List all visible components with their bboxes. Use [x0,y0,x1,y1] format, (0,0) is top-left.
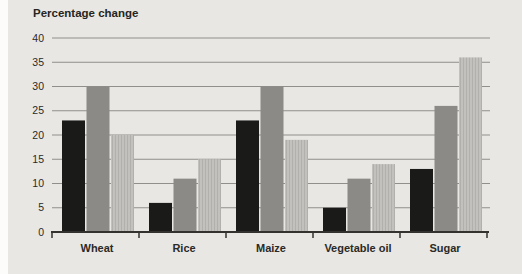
bar-rice-light-gray [198,159,221,232]
y-tick-label: 25 [32,104,44,116]
bar-rice-black [149,203,172,232]
bar-chart: 0510152025303540WheatRiceMaizeVegetable … [8,0,522,274]
y-tick-label: 40 [32,32,44,44]
bar-maize-black [236,120,259,232]
y-tick-label: 15 [32,153,44,165]
x-category-label: Rice [172,242,195,254]
bar-wheat-dark-gray [87,87,110,233]
x-category-label: Maize [256,242,286,254]
bar-vegetable-oil-black [323,208,346,232]
bar-maize-dark-gray [261,87,284,233]
x-category-label: Wheat [81,242,114,254]
y-tick-label: 30 [32,80,44,92]
bar-sugar-dark-gray [435,106,458,232]
x-category-label: Sugar [429,242,461,254]
y-tick-label: 5 [38,201,44,213]
bar-sugar-black [410,169,433,232]
bar-sugar-light-gray [459,57,482,232]
bar-maize-light-gray [285,140,308,232]
bar-rice-dark-gray [174,179,197,232]
y-tick-label: 10 [32,177,44,189]
y-tick-label: 20 [32,129,44,141]
bar-vegetable-oil-dark-gray [348,179,371,232]
bar-wheat-light-gray [111,135,134,232]
x-category-label: Vegetable oil [324,242,391,254]
y-tick-label: 35 [32,56,44,68]
y-tick-label: 0 [38,226,44,238]
bar-vegetable-oil-light-gray [372,164,395,232]
chart-panel: Percentage change 0510152025303540WheatR… [8,0,522,274]
bar-wheat-black [62,120,85,232]
